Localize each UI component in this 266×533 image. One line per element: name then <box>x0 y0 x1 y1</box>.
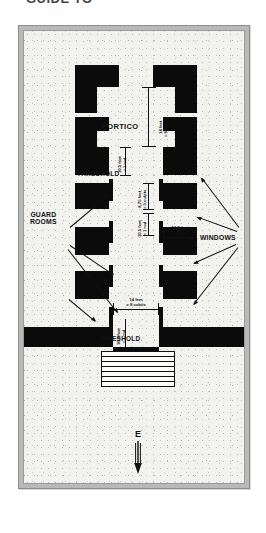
dim-threshold-lower: 10.5 feet = 1 rod <box>116 328 126 345</box>
entry-staircase <box>101 351 175 387</box>
dim-line-2: = 1 rod <box>142 222 147 236</box>
diagram-frame: PORTICO THRESHOLD GUARD ROOMS WINDOWS TH… <box>18 25 250 489</box>
dim-tick <box>163 237 197 238</box>
label-portico: PORTICO <box>102 123 138 131</box>
dim-wall-gap: 10.5 feet = 1 rod <box>137 220 147 237</box>
guardroom-pier-left-2 <box>109 221 113 243</box>
stair-step <box>102 356 174 357</box>
dim-tick <box>158 303 159 315</box>
compass-arrow-icon <box>130 441 146 475</box>
dim-tick <box>142 146 156 147</box>
guardroom-pier-right-1 <box>159 179 163 201</box>
dim-tick <box>142 87 156 88</box>
dim-threshold-upper: 10.5 feet = 1 rod <box>117 156 127 173</box>
dim-tick <box>148 213 149 235</box>
outer-wall-band-right <box>159 327 244 347</box>
guardroom-divider-right-3 <box>163 271 197 299</box>
guardroom-pier-left-1 <box>109 179 113 201</box>
dim-tick <box>143 213 154 214</box>
dim-tick <box>163 227 164 239</box>
guardroom-divider-right-1 <box>163 183 197 209</box>
portico-wall-right-jamb <box>175 87 197 113</box>
windows-leader-3 <box>194 244 236 264</box>
guardroom-pier-right-3 <box>159 265 163 287</box>
portico-wall-right-outer <box>153 65 197 87</box>
dim-tick <box>120 175 131 176</box>
portico-wall-left-jamb <box>75 87 97 113</box>
dim-tick <box>196 227 197 239</box>
entry-pier-right <box>159 307 163 327</box>
dim-tick <box>143 209 154 210</box>
dim-guard-width: 10.5 feet = 1 rod <box>165 225 195 235</box>
dim-entry-width: 14 feet = 8 cubits <box>121 297 151 307</box>
dim-line-2: = 1 rod <box>122 158 127 172</box>
label-windows: WINDOWS <box>200 234 236 241</box>
stair-step <box>102 381 174 382</box>
stair-step <box>102 376 174 377</box>
floor-plan: PORTICO THRESHOLD GUARD ROOMS WINDOWS TH… <box>24 31 244 483</box>
windows-leader-4 <box>193 247 238 304</box>
label-guard-rooms: GUARD ROOMS <box>30 211 57 225</box>
threshold-upper-wall-right <box>163 147 197 175</box>
dim-line-2: = 8 cubits <box>163 118 168 137</box>
diagram-surface: PORTICO THRESHOLD GUARD ROOMS WINDOWS TH… <box>23 30 245 484</box>
compass-indicator: E <box>118 429 158 475</box>
dim-line-2: = 5 cubits <box>142 190 147 209</box>
page-title: GUIDE TO <box>26 0 156 5</box>
dim-line-2: = 1 rod <box>173 230 187 235</box>
stair-step <box>102 366 174 367</box>
stair-step <box>102 361 174 362</box>
dim-tick <box>120 147 131 148</box>
dim-guard-depth: 8.75 feet = 5 cubits <box>137 190 147 209</box>
guard-rooms-line-2: ROOMS <box>30 218 57 225</box>
dim-line-2: = 8 cubits <box>126 302 145 307</box>
dim-tick <box>143 183 154 184</box>
stair-step <box>102 371 174 372</box>
dim-line-2: = 1 rod <box>121 330 126 344</box>
entry-leader <box>69 299 96 322</box>
dim-tick <box>148 87 149 146</box>
compass-east-letter: E <box>118 429 158 439</box>
dim-portico-width: 14 feet = 8 cubits <box>158 118 168 137</box>
dim-tick <box>148 183 149 209</box>
guard-rooms-line-1: GUARD <box>30 211 56 218</box>
portico-wall-left-outer <box>75 65 119 87</box>
dim-tick <box>113 309 159 310</box>
label-threshold-upper: THRESHOLD <box>77 171 119 178</box>
